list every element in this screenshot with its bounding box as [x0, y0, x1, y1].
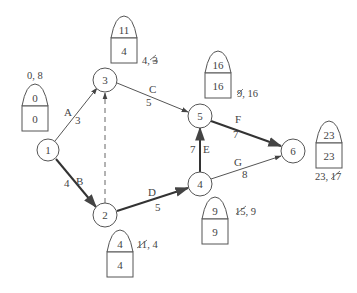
node-5: 5: [188, 104, 212, 128]
edge-b-duration: 4: [64, 177, 70, 189]
edge-c-label: C: [149, 83, 156, 95]
box-1-earliest: 0: [32, 113, 38, 125]
node-6-label: 6: [290, 145, 296, 157]
box-3-latest: 11: [119, 24, 130, 36]
box-2-latest: 4: [117, 238, 123, 250]
edge-e-label: E: [203, 143, 210, 155]
event-box-node-2: 4 4 11, 4: [107, 230, 158, 277]
node-1: 1: [37, 139, 59, 161]
node-2: 2: [93, 203, 117, 227]
node-6: 6: [281, 139, 305, 163]
box-6-latest: 23: [324, 129, 336, 141]
node-3-label: 3: [102, 74, 108, 86]
node-3: 3: [93, 68, 117, 92]
event-box-node-5: 16 16 9, 16: [205, 51, 258, 99]
edge-f: [211, 121, 281, 146]
box-5-earliest: 16: [213, 80, 225, 92]
edge-a-label: A: [64, 106, 72, 118]
node-1-label: 1: [45, 144, 51, 156]
event-box-node-4: 9 9 15, 9: [202, 197, 256, 244]
edge-d-label: D: [148, 186, 156, 198]
box-3-annotation: 4, 3: [142, 55, 158, 66]
node-4: 4: [188, 172, 212, 196]
edge-g-duration: 8: [242, 168, 248, 180]
box-6-annotation: 23, 17: [315, 171, 341, 182]
project-network-diagram: A 3 B 4 C 5 D 5 7 E F 7 G 8 1 3 2 5 4 6 …: [0, 0, 357, 293]
edge-b-label: B: [76, 175, 83, 187]
edge-e-duration: 7: [190, 143, 196, 155]
node-2-label: 2: [102, 209, 108, 221]
edge-g-label: G: [234, 156, 242, 168]
edge-d-duration: 5: [155, 201, 161, 213]
box-4-latest: 9: [212, 205, 218, 217]
edge-f-duration: 7: [233, 128, 239, 140]
edge-c-duration: 5: [146, 96, 152, 108]
node-5-label: 5: [197, 110, 203, 122]
event-box-node-3: 11 4 4, 3: [111, 16, 158, 66]
box-2-earliest: 4: [117, 259, 123, 271]
box-5-annotation: 9, 16: [237, 88, 258, 99]
box-5-latest: 16: [213, 59, 225, 71]
box-3-earliest: 4: [121, 45, 127, 57]
node-4-label: 4: [197, 178, 203, 190]
box-1-annotation: 0, 8: [27, 70, 43, 81]
box-4-earliest: 9: [212, 226, 218, 238]
event-box-node-6: 23 23 23, 17: [315, 121, 342, 182]
edge-a-duration: 3: [75, 114, 81, 126]
edge-f-label: F: [235, 113, 241, 125]
box-1-latest: 0: [32, 92, 38, 104]
event-box-node-1: 0 0 0, 8: [22, 70, 48, 131]
box-6-earliest: 23: [324, 150, 336, 162]
box-4-annotation: 15, 9: [235, 206, 256, 217]
box-2-annotation: 11, 4: [137, 239, 158, 250]
